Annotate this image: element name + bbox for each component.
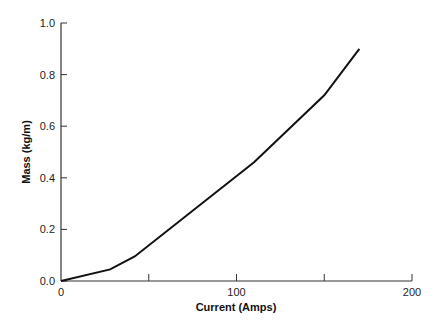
- y-ticks: 0.00.20.40.60.81.0: [40, 17, 67, 287]
- y-tick-label: 0.0: [40, 275, 55, 287]
- x-axis-label: Current (Amps): [196, 301, 277, 313]
- chart: 0.00.20.40.60.81.0 0100200 Current (Amps…: [0, 0, 438, 327]
- x-tick-label: 0: [58, 286, 64, 298]
- y-tick-label: 0.6: [40, 120, 55, 132]
- x-tick-label: 100: [227, 286, 245, 298]
- x-tick-label: 200: [403, 286, 421, 298]
- y-tick-label: 1.0: [40, 17, 55, 29]
- y-tick-label: 0.8: [40, 69, 55, 81]
- y-tick-label: 0.4: [40, 172, 55, 184]
- axes: [61, 23, 412, 281]
- data-line: [61, 49, 359, 281]
- y-tick-label: 0.2: [40, 223, 55, 235]
- x-ticks: 0100200: [58, 274, 421, 298]
- y-axis-label: Mass (kg/m): [20, 120, 32, 184]
